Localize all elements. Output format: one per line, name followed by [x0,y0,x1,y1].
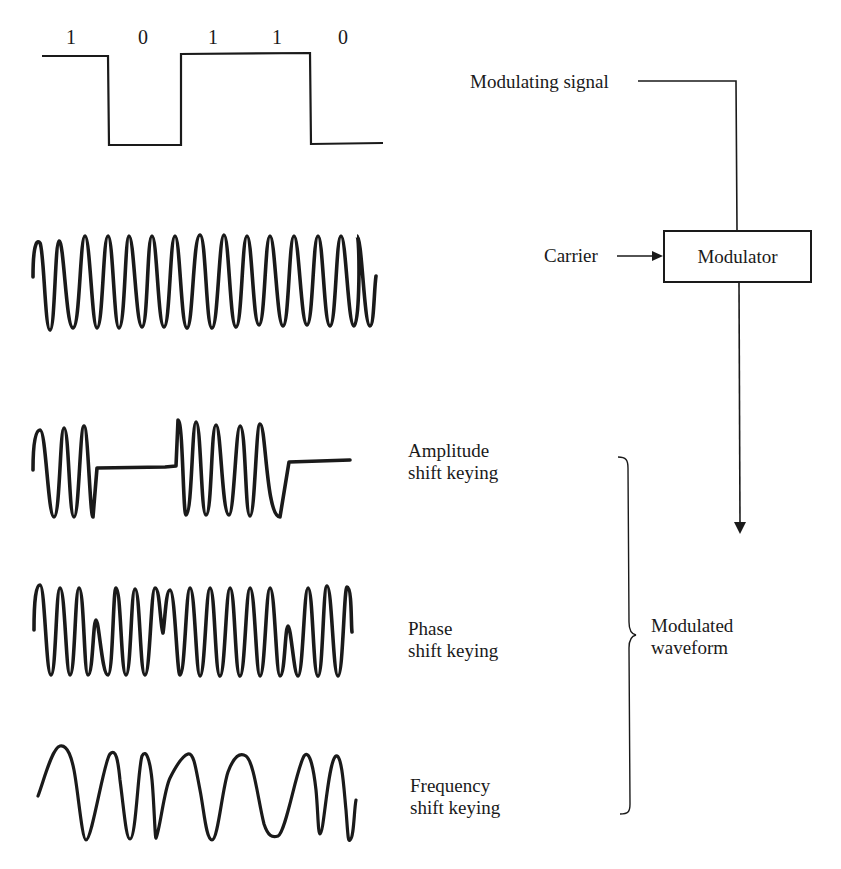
psk-label: Phase shift keying [408,618,498,662]
output-connector [739,283,740,524]
ask-label-line2: shift keying [408,462,498,484]
modulator-label: Modulator [697,246,777,268]
modulated-waveform-brace [618,457,636,814]
carrier-label: Carrier [544,245,598,267]
carrier-arrowhead-icon [652,251,663,261]
psk-label-line2: shift keying [408,640,498,662]
square-wave-signal [42,53,383,145]
fsk-label: Frequency shift keying [410,775,500,819]
modulator-block: Modulator [663,230,812,283]
fsk-label-line1: Frequency [410,775,500,797]
modulated-waveform-label-line1: Modulated [651,615,733,637]
psk-label-line1: Phase [408,618,498,640]
ask-label: Amplitude shift keying [408,440,498,484]
modulating-signal-connector [638,81,737,230]
carrier-waveform [33,235,376,330]
ask-waveform [33,420,350,517]
output-arrowhead-icon [734,522,746,534]
modulating-signal-label: Modulating signal [470,71,609,93]
modulated-waveform-label: Modulated waveform [651,615,733,659]
diagram-canvas [0,0,841,869]
ask-label-line1: Amplitude [408,440,498,462]
modulated-waveform-label-line2: waveform [651,637,733,659]
psk-waveform [34,585,352,676]
fsk-waveform [38,746,356,841]
fsk-label-line2: shift keying [410,797,500,819]
